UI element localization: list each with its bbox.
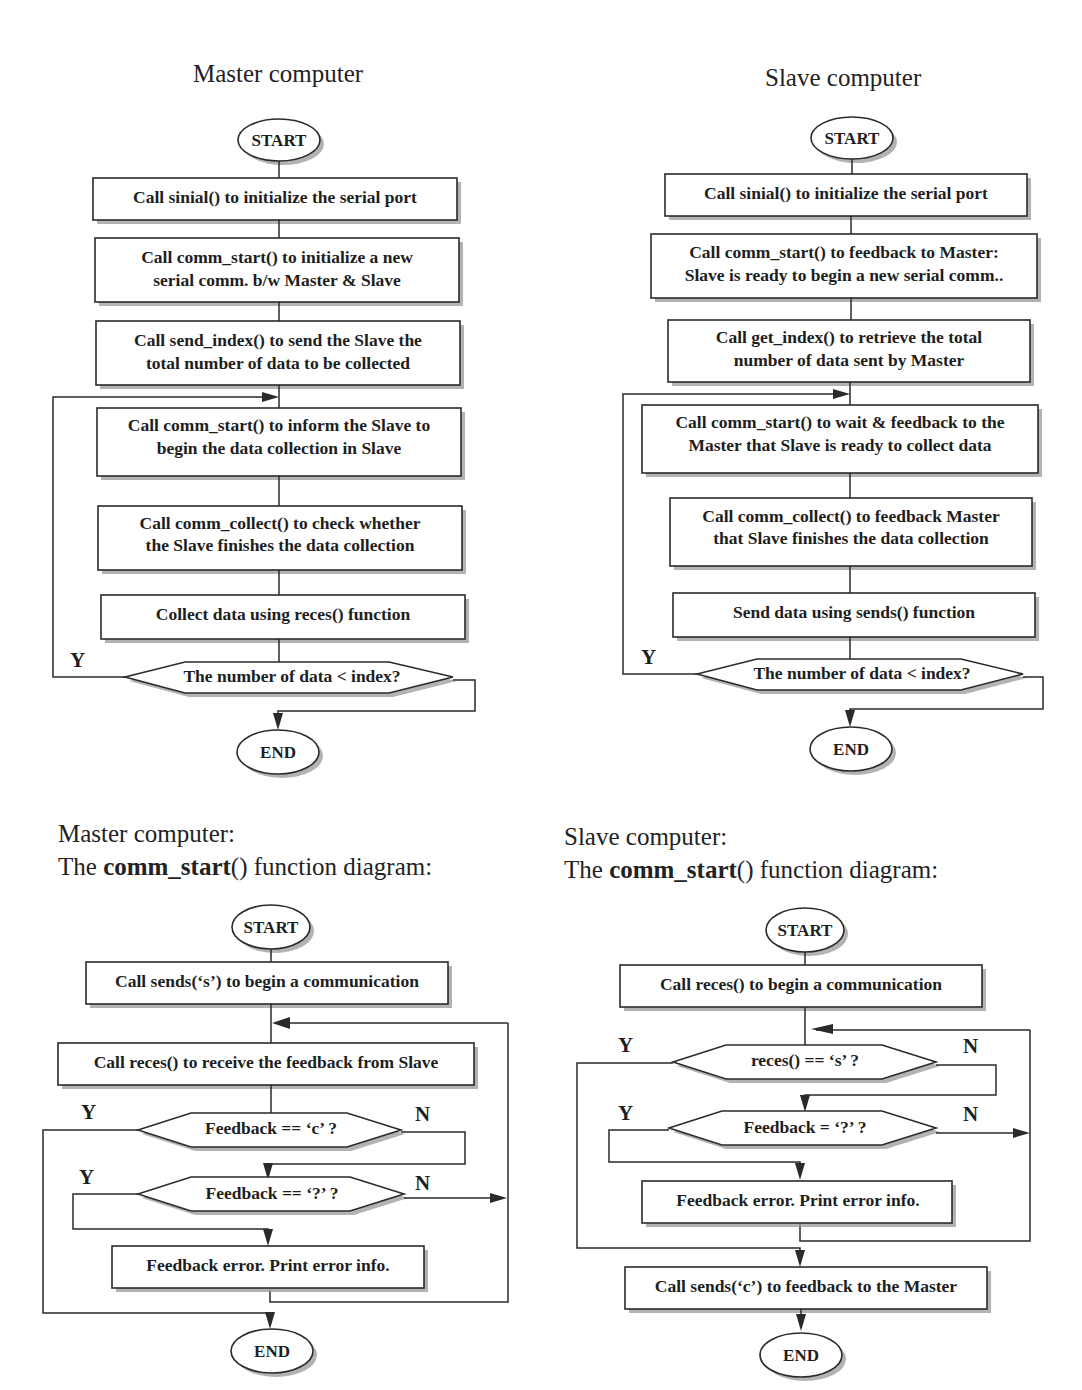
no-label: N bbox=[415, 1171, 430, 1195]
flowcharts-canvas: START Call sinial() to initialize the se… bbox=[0, 0, 1082, 1390]
step-text: Call comm_start() to initialize a new bbox=[141, 247, 413, 267]
end-label: END bbox=[254, 1342, 290, 1361]
master-main-flowchart: START Call sinial() to initialize the se… bbox=[53, 119, 475, 778]
step-text: Call sinial() to initialize the serial p… bbox=[133, 187, 417, 207]
step-text: Slave is ready to begin a new serial com… bbox=[685, 265, 1004, 285]
yes-label: Y bbox=[79, 1165, 94, 1189]
step-text: Master that Slave is ready to collect da… bbox=[688, 435, 991, 455]
step-text: begin the data collection in Slave bbox=[157, 438, 402, 458]
decision-text: The number of data < index? bbox=[753, 663, 970, 683]
start-label: START bbox=[778, 921, 833, 940]
step-text: Call comm_collect() to feedback Master bbox=[702, 506, 1000, 526]
step-text: serial comm. b/w Master & Slave bbox=[153, 270, 401, 290]
end-label: END bbox=[260, 743, 296, 762]
step-text: Collect data using reces() function bbox=[156, 604, 411, 624]
decision-text: Feedback = ‘?’ ? bbox=[744, 1117, 867, 1137]
end-label: END bbox=[833, 740, 869, 759]
no-label: N bbox=[963, 1034, 978, 1058]
decision-text: The number of data < index? bbox=[183, 666, 400, 686]
step-text: Call comm_collect() to check whether bbox=[140, 513, 421, 533]
step-text: Feedback error. Print error info. bbox=[146, 1255, 389, 1275]
step-text: Call sinial() to initialize the serial p… bbox=[704, 183, 988, 203]
yes-label: Y bbox=[81, 1100, 96, 1124]
no-label: N bbox=[415, 1102, 430, 1126]
step-text: that Slave finishes the data collection bbox=[713, 528, 989, 548]
step-text: Call comm_start() to inform the Slave to bbox=[128, 415, 431, 435]
decision-text: Feedback == ‘?’ ? bbox=[206, 1183, 339, 1203]
step-text: Call reces() to receive the feedback fro… bbox=[94, 1052, 439, 1072]
step-text: number of data sent by Master bbox=[734, 350, 965, 370]
step-text: the Slave finishes the data collection bbox=[146, 535, 415, 555]
decision-text: reces() == ‘s’ ? bbox=[751, 1050, 859, 1070]
start-label: START bbox=[252, 131, 307, 150]
step-text: Call sends(‘s’) to begin a communication bbox=[115, 971, 419, 991]
end-label: END bbox=[783, 1346, 819, 1365]
no-label: N bbox=[963, 1102, 978, 1126]
slave-main-flowchart: START Call sinial() to initialize the se… bbox=[623, 117, 1043, 775]
step-text: Call sends(‘c’) to feedback to the Maste… bbox=[655, 1276, 958, 1296]
yes-label: Y bbox=[70, 648, 85, 672]
step-text: Send data using sends() function bbox=[733, 602, 975, 622]
step-text: Call comm_start() to feedback to Master: bbox=[689, 242, 999, 262]
step-text: Call reces() to begin a communication bbox=[660, 974, 942, 994]
yes-label: Y bbox=[618, 1033, 633, 1057]
master-comm-start-flowchart: START Call sends(‘s’) to begin a communi… bbox=[43, 905, 508, 1377]
start-label: START bbox=[825, 129, 880, 148]
step-text: Feedback error. Print error info. bbox=[676, 1190, 919, 1210]
decision-text: Feedback == ‘c’ ? bbox=[205, 1118, 337, 1138]
slave-comm-start-flowchart: START Call reces() to begin a communicat… bbox=[577, 908, 1030, 1381]
step-text: total number of data to be collected bbox=[146, 353, 410, 373]
yes-label: Y bbox=[641, 645, 656, 669]
step-text: Call comm_start() to wait & feedback to … bbox=[675, 412, 1004, 432]
step-text: Call get_index() to retrieve the total bbox=[716, 327, 983, 347]
yes-label: Y bbox=[618, 1101, 633, 1125]
step-text: Call send_index() to send the Slave the bbox=[134, 330, 422, 350]
start-label: START bbox=[244, 918, 299, 937]
